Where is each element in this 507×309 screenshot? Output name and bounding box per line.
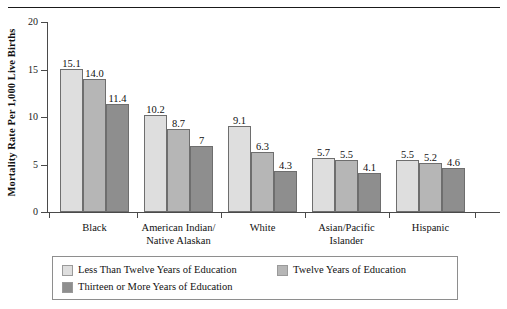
legend-swatch-icon xyxy=(277,265,288,276)
bar: 5.5 xyxy=(396,160,419,212)
bar: 4.3 xyxy=(274,171,297,212)
bar-value-label: 15.1 xyxy=(62,58,80,69)
bar: 4.1 xyxy=(358,173,381,212)
x-tick xyxy=(305,212,306,218)
y-tick: 0 xyxy=(41,212,47,213)
y-axis-line xyxy=(47,22,48,212)
x-tick xyxy=(137,212,138,218)
bar-value-label: 4.1 xyxy=(363,162,376,173)
legend-swatch-icon xyxy=(62,282,73,293)
y-tick: 15 xyxy=(41,70,47,71)
bar-value-label: 4.3 xyxy=(279,160,292,171)
bar-value-label: 5.5 xyxy=(401,149,414,160)
bar-value-label: 8.7 xyxy=(172,118,185,129)
x-axis-label-line: Islander xyxy=(287,235,407,248)
y-tick-label: 20 xyxy=(28,16,38,27)
bar-value-label: 7 xyxy=(199,135,204,146)
y-axis-title: Mortality Rate Per 1,000 Live Births xyxy=(4,5,20,220)
legend-item: Twelve Years of Education xyxy=(277,264,406,276)
y-tick: 5 xyxy=(41,165,47,166)
legend-swatch-icon xyxy=(62,265,73,276)
chart-page: Mortality Rate Per 1,000 Live Births 051… xyxy=(0,0,507,309)
bar: 9.1 xyxy=(228,126,251,212)
x-axis-label: Hispanic xyxy=(371,222,491,235)
y-tick-label: 0 xyxy=(33,206,38,217)
x-tick xyxy=(389,212,390,218)
y-tick-label: 15 xyxy=(28,64,38,75)
x-tick xyxy=(475,212,476,218)
x-tick xyxy=(49,212,50,218)
legend-item: Less Than Twelve Years of Education xyxy=(62,264,237,276)
x-axis-line xyxy=(47,212,500,213)
bar: 15.1 xyxy=(60,69,83,212)
x-axis-label-line: Hispanic xyxy=(371,222,491,235)
bar-value-label: 5.2 xyxy=(424,152,437,163)
bar: 14.0 xyxy=(83,79,106,212)
bar: 7 xyxy=(190,146,213,213)
legend: Less Than Twelve Years of Education Twel… xyxy=(52,256,458,300)
legend-label: Thirteen or More Years of Education xyxy=(78,281,233,293)
legend-item: Thirteen or More Years of Education xyxy=(62,281,233,293)
bar-value-label: 11.4 xyxy=(109,93,127,104)
bar-value-label: 4.6 xyxy=(447,157,460,168)
plot-area: 05101520 15.114.011.410.28.779.16.34.35.… xyxy=(47,22,500,212)
y-tick-label: 10 xyxy=(28,111,38,122)
bar: 10.2 xyxy=(144,115,167,212)
bar-value-label: 9.1 xyxy=(233,115,246,126)
bar-value-label: 5.5 xyxy=(340,149,353,160)
legend-label: Less Than Twelve Years of Education xyxy=(78,264,237,276)
y-tick: 10 xyxy=(41,117,47,118)
bar: 5.7 xyxy=(312,158,335,212)
bar: 11.4 xyxy=(106,104,129,212)
y-tick: 20 xyxy=(41,22,47,23)
legend-label: Twelve Years of Education xyxy=(293,264,406,276)
bar: 5.5 xyxy=(335,160,358,212)
y-tick-label: 5 xyxy=(33,159,38,170)
bar-value-label: 10.2 xyxy=(146,104,164,115)
bar-value-label: 5.7 xyxy=(317,147,330,158)
bar: 5.2 xyxy=(419,163,442,212)
bar-value-label: 6.3 xyxy=(256,141,269,152)
bar: 8.7 xyxy=(167,129,190,212)
x-axis-label-line: Native Alaskan xyxy=(119,235,239,248)
bar: 6.3 xyxy=(251,152,274,212)
bar: 4.6 xyxy=(442,168,465,212)
x-tick xyxy=(221,212,222,218)
top-rule xyxy=(8,7,500,8)
bar-value-label: 14.0 xyxy=(85,68,103,79)
